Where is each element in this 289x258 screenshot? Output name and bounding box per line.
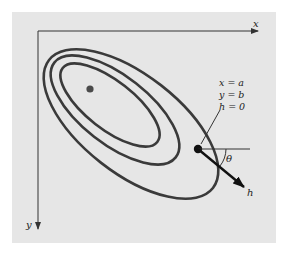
label-x-equals-a: x = a	[219, 77, 244, 88]
x-axis-label: x	[253, 18, 259, 29]
theta-label: θ	[226, 153, 232, 164]
optimum-point	[86, 85, 93, 92]
leader-line	[201, 110, 220, 144]
y-axis-label: y	[25, 219, 32, 230]
label-h-equals-0: h = 0	[219, 101, 245, 112]
h-vector-label: h	[247, 187, 253, 198]
label-y-equals-b: y = b	[218, 89, 244, 100]
contour-diagram: x y θ h x = a y = b h = 0	[0, 0, 289, 258]
direction-vector	[198, 149, 244, 187]
contour-outer	[19, 21, 243, 226]
